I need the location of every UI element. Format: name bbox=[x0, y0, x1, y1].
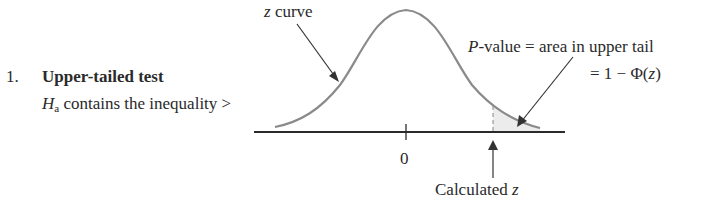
hypothesis-symbol: H bbox=[42, 94, 54, 113]
calculated-variable: z bbox=[512, 180, 519, 198]
item-title: Upper-tailed test bbox=[42, 67, 164, 87]
item-number: 1. bbox=[6, 67, 19, 87]
pvalue-text: -value = area in upper tail bbox=[478, 37, 653, 56]
pvalue-formula-prefix: = 1 − Φ( bbox=[590, 64, 649, 83]
pvalue-arrow-shaft bbox=[521, 57, 573, 122]
hypothesis-text: contains the inequality > bbox=[59, 94, 231, 113]
z-curve-arrow-shaft bbox=[297, 24, 336, 78]
pvalue-label-line1: P-value = area in upper tail bbox=[468, 37, 654, 57]
calculated-z-label: Calculated z bbox=[435, 180, 519, 198]
pvalue-formula-suffix: ) bbox=[655, 64, 661, 83]
zero-tick-label: 0 bbox=[400, 149, 409, 169]
pvalue-label-line2: = 1 − Φ(z) bbox=[590, 64, 661, 84]
z-curve-variable: z bbox=[264, 2, 271, 21]
pvalue-variable: P bbox=[468, 37, 478, 56]
z-curve-text: curve bbox=[271, 2, 313, 21]
alternative-hypothesis: Ha contains the inequality > bbox=[42, 94, 231, 114]
z-curve-label: z curve bbox=[264, 2, 313, 22]
z-curve-arrowhead-icon bbox=[329, 71, 339, 82]
calculated-text: Calculated bbox=[435, 180, 512, 198]
calculated-z-arrowhead-icon bbox=[488, 140, 498, 150]
z-curve bbox=[275, 10, 540, 128]
